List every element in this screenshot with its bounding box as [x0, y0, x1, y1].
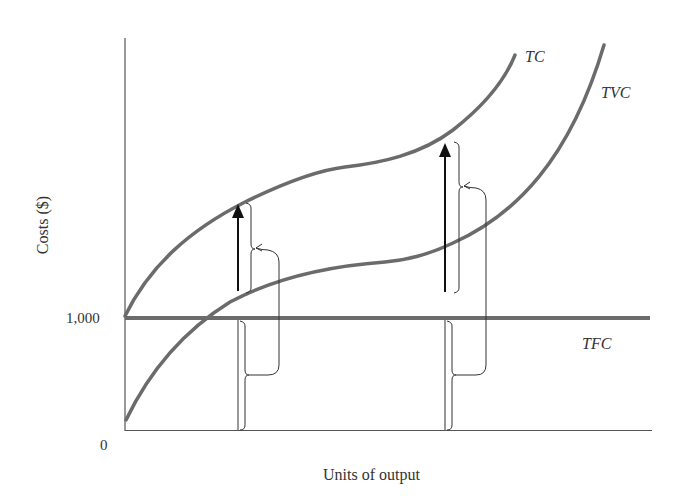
y-axis-label: Costs ($): [34, 190, 52, 260]
cost-curves-chart: [0, 0, 684, 502]
tc-curve: [125, 55, 515, 316]
arrow-high-output: [439, 143, 451, 292]
arrow-low-output: [232, 204, 244, 291]
tfc-label: TFC: [582, 335, 611, 353]
tc-label: TC: [525, 48, 545, 66]
x-axis-label: Units of output: [323, 466, 420, 484]
brackets-high-output: [445, 142, 486, 430]
y-tick-0: 0: [100, 437, 108, 454]
tvc-label: TVC: [601, 84, 630, 102]
y-tick-1000: 1,000: [66, 310, 100, 327]
